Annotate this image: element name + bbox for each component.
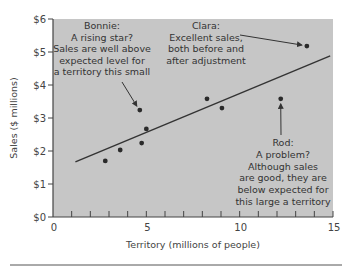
y-tick-label: $0 (33, 212, 46, 223)
data-point (103, 159, 108, 164)
y-tick-label: $2 (33, 146, 46, 157)
data-point (144, 126, 149, 131)
x-tick-label: 5 (144, 222, 150, 233)
data-point (118, 148, 123, 153)
y-tick-label: $3 (33, 113, 46, 124)
x-tick-label: 15 (328, 222, 341, 233)
data-point (205, 96, 210, 101)
data-point (139, 141, 144, 146)
y-axis-title: Sales ($ millions) (8, 77, 19, 158)
data-point-rod (278, 96, 283, 101)
scatter-chart: $0$1$2$3$4$5$6 051015 Bonnie:A rising st… (0, 0, 352, 268)
y-tick-label: $5 (33, 47, 46, 58)
y-tick-label: $4 (33, 80, 46, 91)
x-axis-title: Territory (millions of people) (125, 239, 260, 250)
y-tick-labels: $0$1$2$3$4$5$6 (33, 14, 46, 223)
x-tick-label: 10 (234, 222, 247, 233)
data-point-bonnie (137, 108, 142, 113)
x-tick-label: 0 (51, 222, 57, 233)
data-point-clara (304, 44, 309, 49)
y-tick-label: $1 (33, 179, 46, 190)
data-point (220, 106, 225, 111)
x-tick-labels: 051015 (51, 222, 341, 233)
y-tick-label: $6 (33, 14, 46, 25)
